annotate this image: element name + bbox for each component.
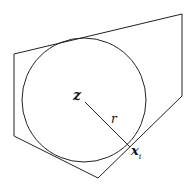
- radius-line: [85, 102, 130, 147]
- diagram-figure: [0, 0, 191, 188]
- diagram-canvas: z r xi: [0, 0, 191, 188]
- radius-label: r: [111, 112, 117, 126]
- center-label: z: [73, 87, 81, 103]
- point-label-subscript: i: [139, 152, 142, 161]
- inscribed-circle: [22, 38, 146, 162]
- point-label: xi: [131, 143, 141, 161]
- point-label-base: x: [131, 143, 139, 158]
- pentagon: [14, 14, 182, 178]
